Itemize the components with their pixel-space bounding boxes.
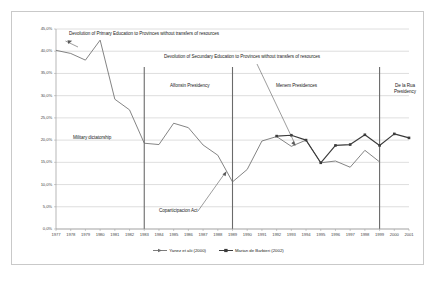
x-tick-1984: 1984: [154, 233, 163, 237]
legend-label-barbieri: Marian de Barbieri (2002): [235, 248, 284, 253]
x-tick-1991: 1991: [257, 233, 266, 237]
x-tick-2001: 2001: [405, 233, 414, 237]
data-point-barbieri-1995: [319, 161, 322, 164]
x-tick-1997: 1997: [346, 233, 355, 237]
x-tick-1996: 1996: [331, 233, 340, 237]
series-line-yanez: [56, 40, 380, 182]
legend-swatch-yanez: [153, 248, 167, 253]
x-tick-1985: 1985: [169, 233, 178, 237]
x-tick-1993: 1993: [287, 233, 296, 237]
annotation-secundary-education: Devolution of Secundary Education to Pro…: [164, 54, 320, 60]
x-tick-1998: 1998: [360, 233, 369, 237]
data-point-barbieri-1994: [305, 139, 308, 142]
x-tick-1995: 1995: [316, 233, 325, 237]
data-point-barbieri-2000: [393, 133, 396, 136]
chart-frame: 45,0% 40,0% 35,0% 30,0% 25,0% 20,0% 15,0…: [11, 11, 424, 265]
annotation-military-dictatorship: Military dictatorship: [73, 135, 111, 141]
legend-item-yanez: Yanez et alii (2000): [153, 248, 206, 253]
data-point-barbieri-1997: [349, 143, 352, 146]
leader-primary-education: [66, 41, 79, 47]
data-point-barbieri-1999: [378, 144, 381, 147]
x-tick-2000: 2000: [390, 233, 399, 237]
x-tick-1980: 1980: [96, 233, 105, 237]
x-tick-1999: 1999: [375, 233, 384, 237]
data-point-barbieri-1998: [364, 133, 367, 136]
data-point-barbieri-2001: [408, 137, 411, 140]
data-point-barbieri-1992: [275, 135, 278, 138]
annotation-primary-education: Devolution of Primary Education to Provi…: [69, 31, 219, 37]
x-tick-1987: 1987: [199, 233, 208, 237]
event-lines: [144, 67, 379, 229]
series-layer: [56, 40, 410, 182]
annotation-coparticipacion-act: Coparticipacion Act: [159, 208, 197, 214]
x-tick-1981: 1981: [110, 233, 119, 237]
x-tick-1978: 1978: [66, 233, 75, 237]
annotation-alfonsin-presidency: Alfonsin Presidency: [170, 83, 209, 89]
data-point-barbieri-1996: [334, 144, 337, 147]
x-tick-1992: 1992: [272, 233, 281, 237]
annotation-menem-presidences: Menem Presidences: [276, 83, 317, 89]
x-tick-1989: 1989: [228, 233, 237, 237]
x-tick-1979: 1979: [81, 233, 90, 237]
leader-coparticipacion: [198, 173, 225, 211]
x-tick-1982: 1982: [125, 233, 134, 237]
leader-secundary-education: [257, 64, 295, 144]
annotation-delarua-presidency: De la Rua Presidency: [385, 83, 425, 94]
x-tick-1994: 1994: [302, 233, 311, 237]
x-tick-1986: 1986: [184, 233, 193, 237]
series-line-barbieri: [277, 134, 409, 163]
x-tick-1983: 1983: [140, 233, 149, 237]
x-tick-1990: 1990: [243, 233, 252, 237]
x-tick-1988: 1988: [213, 233, 222, 237]
x-axis-tick-labels: 1977197819791980198119821983198419851986…: [56, 233, 409, 245]
legend-swatch-barbieri: [219, 248, 233, 253]
legend-item-barbieri: Marian de Barbieri (2002): [219, 248, 284, 253]
legend-label-yanez: Yanez et alii (2000): [169, 248, 206, 253]
chart-legend: Yanez et alii (2000) Marian de Barbieri …: [12, 248, 425, 253]
x-tick-1977: 1977: [52, 233, 61, 237]
